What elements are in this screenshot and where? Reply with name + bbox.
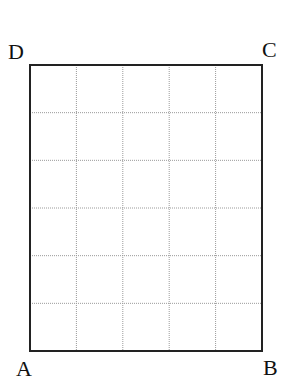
vertex-label-a: A [16,358,32,380]
vertex-label-b: B [263,357,278,379]
vertex-label-c: C [262,39,277,61]
vertex-label-d: D [8,41,24,63]
grid-rectangle [0,0,296,384]
